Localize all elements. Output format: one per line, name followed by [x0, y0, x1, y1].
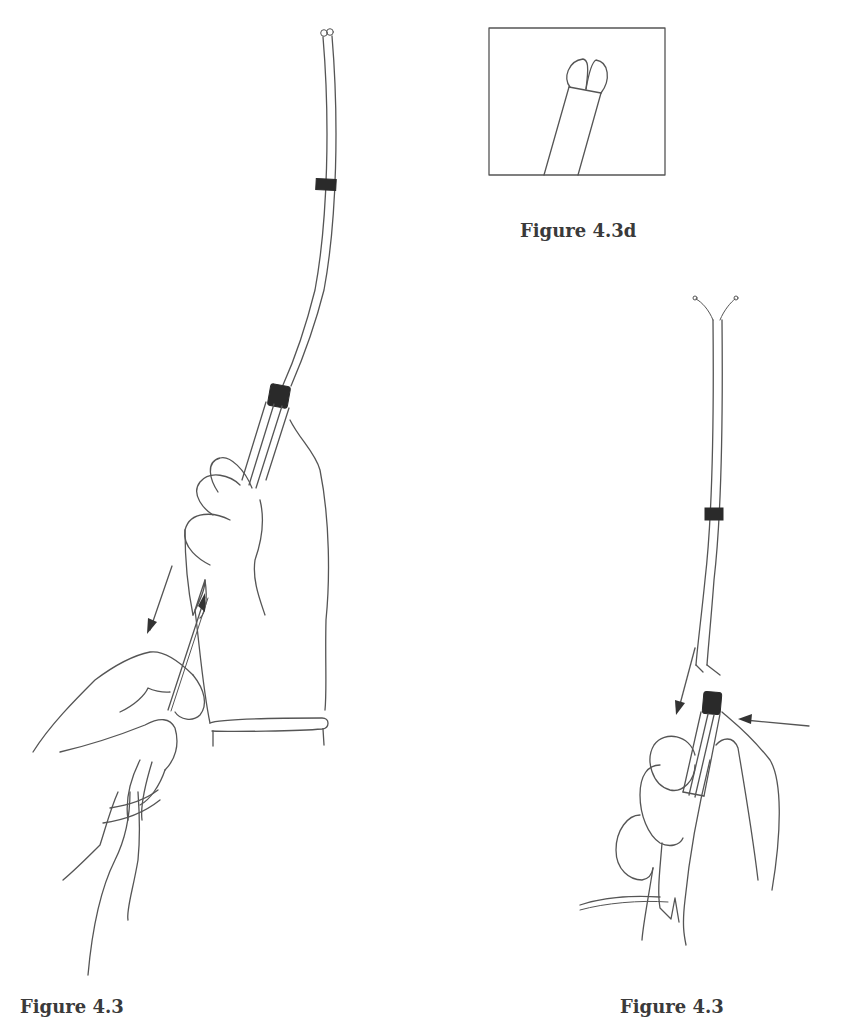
inset-frame — [489, 28, 665, 175]
catheter-hub-band — [267, 383, 291, 408]
inset-tip-left-lobe — [567, 59, 588, 89]
hand-outline — [642, 868, 653, 940]
catheter-tip-ball — [327, 29, 334, 36]
glove-cuff — [210, 718, 328, 731]
catheter-taper — [707, 665, 720, 675]
upper-hand-palm — [254, 500, 265, 615]
finger-pad — [616, 815, 653, 880]
finger-pad — [640, 765, 683, 845]
hand-thumb — [659, 843, 679, 922]
tip-wire-ball — [734, 296, 738, 300]
catheter-marker-band — [316, 178, 337, 190]
upper-hand-wrist-left — [195, 610, 210, 723]
lower-hand-crease — [120, 688, 170, 712]
inset-tube-rim — [569, 87, 601, 93]
trailing-wire — [63, 792, 118, 880]
inset-tip-right-lobe — [586, 60, 607, 93]
left-figure — [33, 29, 336, 975]
upper-hand-outline — [290, 420, 328, 710]
sheath-end — [683, 792, 704, 796]
upper-hand-finger — [197, 475, 240, 515]
push-direction-arrow — [679, 648, 695, 708]
tip-wire — [696, 299, 713, 320]
catheter-tip-ball — [321, 30, 328, 37]
arrow-head-icon — [675, 700, 685, 715]
inset-tube-right — [578, 93, 601, 175]
lower-hand-finger — [140, 770, 165, 805]
catheter-shaft-right — [291, 36, 336, 386]
hand-outline — [716, 739, 758, 880]
guide-wire — [171, 598, 208, 711]
finger-pad — [650, 736, 695, 790]
lower-hand-thumb — [175, 675, 204, 719]
wrist-line — [323, 729, 324, 745]
trailing-wire — [88, 792, 130, 975]
right-figure — [580, 296, 809, 945]
lower-hand-finger — [60, 720, 177, 770]
catheter-shaft-left — [696, 320, 713, 665]
tip-wire — [720, 299, 735, 320]
sheath-pointer-arrow — [745, 720, 809, 726]
inset-figure-4-3d — [489, 28, 665, 175]
catheter-marker-band — [705, 508, 723, 520]
inset-tube-left — [544, 87, 569, 175]
tip-wire-ball — [693, 296, 697, 300]
arrow-head-icon — [147, 618, 157, 634]
catheter-taper — [696, 665, 703, 672]
catheter-shaft-right — [707, 320, 722, 665]
arrow-head-icon — [738, 714, 752, 724]
catheter-hub-band — [702, 691, 722, 714]
caption-right-figure: Figure 4.3 — [620, 996, 724, 1017]
catheter-shaft-left — [283, 37, 327, 385]
hand-outline — [722, 712, 779, 890]
upper-hand-finger — [185, 514, 230, 565]
caption-figure-4-3d: Figure 4.3d — [520, 220, 636, 241]
trailing-wire — [580, 901, 668, 910]
caption-left-figure: Figure 4.3 — [20, 996, 124, 1017]
